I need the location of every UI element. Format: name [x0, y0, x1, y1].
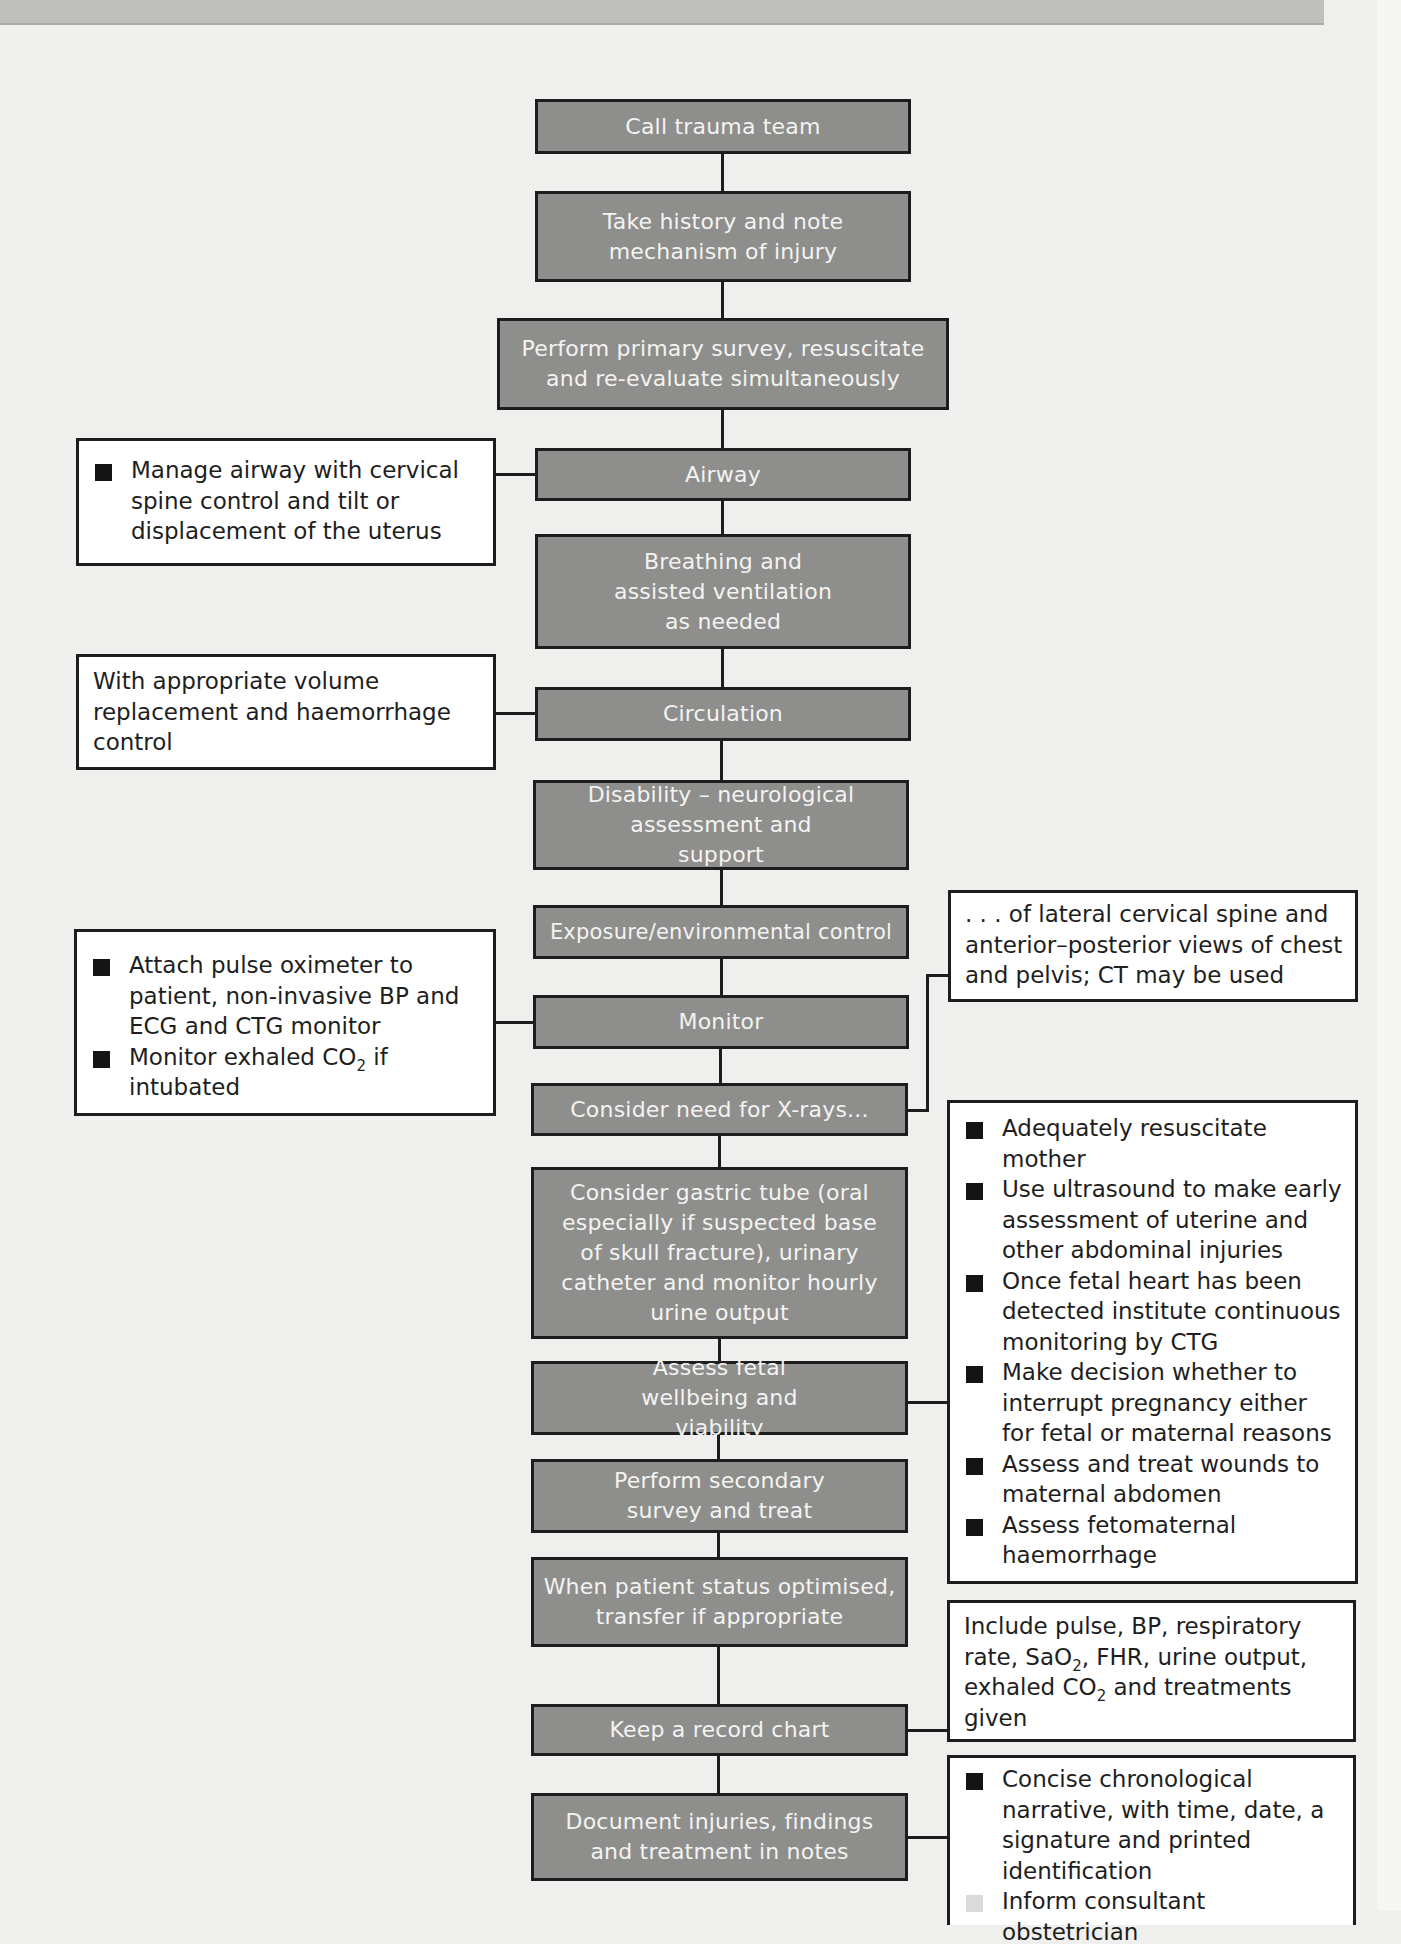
step-record-chart: Keep a record chart — [531, 1704, 908, 1756]
note-item: Inform consultant obstetrician — [964, 1886, 1341, 1944]
note-text: With appropriate volume replacement and … — [93, 668, 451, 755]
note-list: Adequately resuscitate mother Use ultras… — [964, 1113, 1343, 1571]
step-label: Exposure/environmental control — [550, 917, 892, 947]
note-record-chart: Include pulse, BP, respiratory rate, SaO… — [947, 1600, 1356, 1742]
step-label: Monitor — [678, 1007, 763, 1037]
step-label: When patient status optimised, transfer … — [540, 1572, 899, 1632]
step-label: Call trauma team — [625, 112, 820, 142]
connector — [721, 500, 724, 534]
step-fetal-wellbeing: Assess fetal wellbeing and viability — [531, 1361, 908, 1435]
step-circulation: Circulation — [535, 687, 911, 741]
connector — [907, 1836, 947, 1839]
square-bullet-icon — [966, 1895, 983, 1912]
page-margin — [1377, 0, 1401, 1911]
step-label: Assess fetal wellbeing and viability — [614, 1353, 825, 1443]
page-header-band — [0, 0, 1324, 25]
connector — [495, 473, 535, 476]
square-bullet-icon — [966, 1519, 983, 1536]
connector — [721, 281, 724, 318]
step-label: Take history and note mechanism of injur… — [593, 207, 853, 267]
step-monitor: Monitor — [533, 995, 909, 1049]
connector — [907, 1401, 947, 1404]
square-bullet-icon — [93, 1051, 110, 1068]
step-airway: Airway — [535, 448, 911, 501]
square-bullet-icon — [95, 464, 112, 481]
note-item: Use ultrasound to make early assessment … — [964, 1174, 1343, 1266]
note-fetal-wellbeing: Adequately resuscitate mother Use ultras… — [947, 1100, 1358, 1584]
step-label: Breathing and assisted ventilation as ne… — [598, 547, 848, 637]
note-monitor: Attach pulse oximeter to patient, non-in… — [74, 929, 496, 1116]
square-bullet-icon — [966, 1366, 983, 1383]
step-label: Consider need for X-rays... — [570, 1095, 868, 1125]
square-bullet-icon — [93, 959, 110, 976]
connector — [719, 1048, 722, 1083]
connector — [495, 1021, 533, 1024]
note-text: . . . of lateral cervical spine and ante… — [965, 901, 1342, 988]
note-airway: Manage airway with cervical spine contro… — [76, 438, 496, 566]
note-item: Concise chronological narrative, with ti… — [964, 1764, 1341, 1886]
note-item: Assess and treat wounds to maternal abdo… — [964, 1449, 1343, 1510]
note-item: Monitor exhaled CO2 if intubated — [91, 1042, 481, 1103]
step-document-injuries: Document injuries, findings and treatmen… — [531, 1793, 908, 1881]
step-call-trauma-team: Call trauma team — [535, 99, 911, 154]
step-xrays: Consider need for X-rays... — [531, 1083, 908, 1136]
note-list: Attach pulse oximeter to patient, non-in… — [91, 950, 481, 1103]
connector — [717, 1755, 720, 1793]
note-document-injuries: Concise chronological narrative, with ti… — [947, 1755, 1356, 1925]
connector — [720, 869, 723, 905]
connector — [721, 648, 724, 687]
connector — [495, 712, 535, 715]
note-item: Assess fetomaternal haemorrhage — [964, 1510, 1343, 1571]
step-transfer: When patient status optimised, transfer … — [531, 1557, 908, 1647]
square-bullet-icon — [966, 1122, 983, 1139]
connector — [721, 153, 724, 191]
square-bullet-icon — [966, 1458, 983, 1475]
note-circulation: With appropriate volume replacement and … — [76, 654, 496, 770]
step-label: Perform primary survey, resuscitate and … — [520, 334, 926, 394]
step-gastric-tube: Consider gastric tube (oral especially i… — [531, 1167, 908, 1339]
step-secondary-survey: Perform secondary survey and treat — [531, 1459, 908, 1533]
connector — [926, 974, 948, 977]
connector — [721, 409, 724, 448]
step-label: Consider gastric tube (oral especially i… — [558, 1178, 881, 1328]
note-item: Adequately resuscitate mother — [964, 1113, 1343, 1174]
note-item: Manage airway with cervical spine contro… — [93, 455, 481, 547]
connector — [718, 1135, 721, 1167]
step-primary-survey: Perform primary survey, resuscitate and … — [497, 318, 949, 410]
step-take-history: Take history and note mechanism of injur… — [535, 191, 911, 282]
connector — [926, 974, 929, 1112]
note-item: Make decision whether to interrupt pregn… — [964, 1357, 1343, 1449]
step-label: Perform secondary survey and treat — [574, 1466, 865, 1526]
square-bullet-icon — [966, 1275, 983, 1292]
connector — [907, 1729, 947, 1732]
step-label: Keep a record chart — [609, 1715, 829, 1745]
note-xrays: . . . of lateral cervical spine and ante… — [948, 890, 1358, 1002]
step-label: Disability – neurological assessment and… — [586, 780, 856, 870]
connector — [717, 1532, 720, 1557]
connector — [717, 1646, 720, 1704]
note-item: Once fetal heart has been detected insti… — [964, 1266, 1343, 1358]
step-exposure: Exposure/environmental control — [533, 905, 909, 959]
step-label: Circulation — [663, 699, 783, 729]
connector — [720, 740, 723, 780]
step-label: Document injuries, findings and treatmen… — [554, 1807, 885, 1867]
square-bullet-icon — [966, 1183, 983, 1200]
connector — [720, 958, 723, 995]
note-item: Attach pulse oximeter to patient, non-in… — [91, 950, 481, 1042]
note-list: Concise chronological narrative, with ti… — [964, 1764, 1341, 1944]
square-bullet-icon — [966, 1773, 983, 1790]
step-label: Airway — [685, 460, 761, 490]
step-breathing: Breathing and assisted ventilation as ne… — [535, 534, 911, 649]
step-disability: Disability – neurological assessment and… — [533, 780, 909, 870]
note-list: Manage airway with cervical spine contro… — [93, 455, 481, 547]
